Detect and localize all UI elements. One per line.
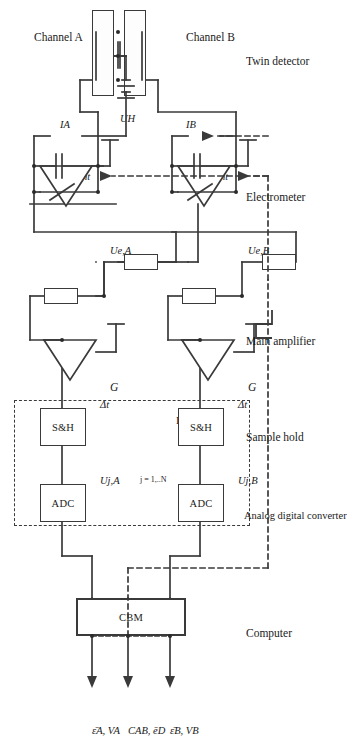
trigger-pulse-symbol xyxy=(250,296,276,340)
